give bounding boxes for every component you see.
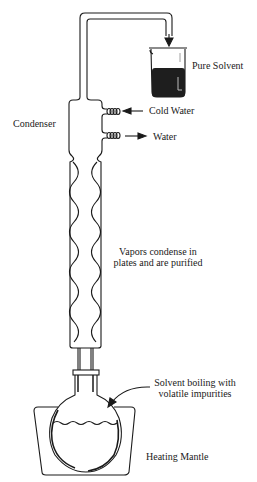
vapors-label-line2: plates and are purified (108, 257, 208, 268)
boiling-label-line2: volatile impurities (150, 388, 240, 399)
cold-water-inlet-barb-icon (107, 109, 120, 115)
curved-arrow-icon (112, 387, 150, 402)
boiling-label-line1: Solvent boiling with (150, 377, 240, 388)
heating-mantle-icon (34, 407, 135, 475)
fractionating-column-icon (70, 156, 102, 348)
cold-water-label: Cold Water (149, 105, 194, 116)
pure-solvent-label: Pure Solvent (192, 60, 243, 71)
boiling-label: Solvent boiling with volatile impurities (150, 377, 240, 399)
water-label: Water (153, 131, 177, 142)
condenser-label: Condenser (13, 118, 56, 129)
ground-glass-joint-icon (73, 348, 99, 392)
vapors-label: Vapors condense in plates and are purifi… (108, 246, 208, 268)
water-outlet-barb-icon (107, 133, 120, 139)
arrowhead-icon (165, 38, 173, 46)
vapors-label-line1: Vapors condense in (108, 246, 208, 257)
heating-mantle-label: Heating Mantle (146, 451, 208, 462)
beaker-icon (149, 48, 187, 97)
condenser-icon (69, 97, 107, 156)
distillation-diagram (0, 0, 257, 482)
